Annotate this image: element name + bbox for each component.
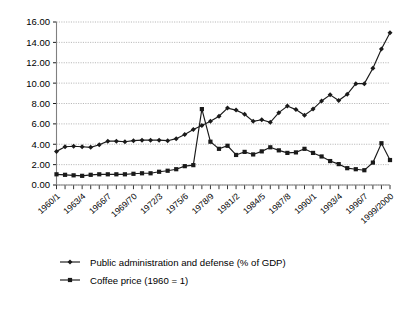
data-point-marker [208,140,212,144]
data-point-marker [157,138,162,143]
data-point-marker [165,138,170,143]
gridlines-group [57,22,391,185]
y-tick-label: 8.00 [32,98,51,109]
data-point-marker [362,81,367,86]
data-point-marker [89,173,93,177]
data-point-marker [251,152,255,156]
data-point-marker [72,173,76,177]
chart-container: 0.002.004.006.008.0010.0012.0014.0016.00… [0,0,407,313]
data-point-marker [379,46,384,51]
data-point-marker [166,169,170,173]
data-point-marker [123,172,127,176]
x-tick-label: 1993/4 [318,191,344,216]
y-tick-label: 14.00 [26,37,50,48]
data-point-marker [80,174,84,178]
data-point-marker [243,150,247,154]
x-tick-label: 1984/5 [241,191,267,216]
data-point-marker [148,171,152,175]
x-tick-label: 1987/8 [266,191,292,216]
y-tick-label: 4.00 [32,139,51,150]
data-point-marker [106,172,110,176]
legend-item-1: Public administration and defense (% of … [60,257,286,268]
data-point-marker [63,173,67,177]
data-point-marker [140,171,144,175]
data-point-marker [54,149,59,154]
data-point-marker [294,150,298,154]
data-point-marker [131,138,136,143]
x-tick-label: 1963/4 [61,191,87,216]
data-point-marker [388,30,393,35]
data-point-marker [122,139,127,144]
data-point-marker [105,139,110,144]
data-point-marker [234,153,238,157]
y-tick-label: 12.00 [26,57,50,68]
chart-legend: Public administration and defense (% of … [60,257,286,286]
data-point-marker [319,154,323,158]
x-tick-label: 1972/3 [138,191,164,216]
data-point-marker [260,149,264,153]
data-point-marker [311,151,315,155]
data-series-group [54,30,393,178]
x-tick-label: 1990/1 [292,191,318,216]
data-point-marker [97,142,102,147]
x-tick-labels-group: 1960/11963/41966/71969/701972/31975/6197… [36,191,396,226]
data-point-marker [345,166,349,170]
data-point-marker [200,107,204,111]
line-chart: 0.002.004.006.008.0010.0012.0014.0016.00… [0,0,407,313]
data-point-marker [225,144,229,148]
data-point-marker [259,117,264,122]
data-point-marker [54,172,58,176]
data-point-marker [114,172,118,176]
data-point-marker [328,159,332,163]
legend-item-2: Coffee price (1960 = 1) [60,275,188,286]
data-point-marker [182,132,187,137]
data-point-marker [140,138,145,143]
y-tick-label: 10.00 [26,78,50,89]
data-point-marker [63,144,68,149]
data-point-marker [370,66,375,71]
y-tick-labels-group: 0.002.004.006.008.0010.0012.0014.0016.00 [26,16,50,190]
data-point-marker [191,163,195,167]
y-tick-label: 0.00 [32,179,51,190]
data-point-marker [277,148,281,152]
data-point-marker [285,151,289,155]
data-point-marker [183,164,187,168]
data-point-marker [379,141,383,145]
data-point-marker [354,167,358,171]
y-tick-label: 16.00 [26,16,50,27]
data-point-marker [302,147,306,151]
data-point-marker [80,144,85,149]
data-point-marker [114,139,119,144]
data-point-marker [97,172,101,176]
x-tick-label: 1981/2 [215,191,241,216]
data-point-marker [362,168,366,172]
data-point-marker [191,127,196,132]
x-tick-label: 1975/6 [164,191,190,216]
legend-label: Public administration and defense (% of … [90,257,286,268]
y-tick-label: 6.00 [32,118,51,129]
series-1 [54,30,393,154]
data-point-marker [157,170,161,174]
data-point-marker [268,145,272,149]
data-point-marker [371,160,375,164]
data-point-marker [131,172,135,176]
data-point-marker [388,158,392,162]
legend-marker-square [68,278,72,282]
data-point-marker [148,138,153,143]
data-point-marker [217,147,221,151]
x-tick-label: 1969/70 [109,191,139,219]
data-point-marker [208,119,213,124]
data-point-marker [174,136,179,141]
x-tick-label: 1978/9 [190,191,216,216]
data-point-marker [88,145,93,150]
data-point-marker [337,162,341,166]
series-line [57,33,391,152]
x-tick-marks-group [57,185,391,189]
data-point-marker [234,108,239,113]
legend-marker-diamond [68,260,73,265]
x-tick-label: 1960/1 [36,191,62,216]
legend-label: Coffee price (1960 = 1) [90,275,188,286]
data-point-marker [174,167,178,171]
y-tick-label: 2.00 [32,159,51,170]
